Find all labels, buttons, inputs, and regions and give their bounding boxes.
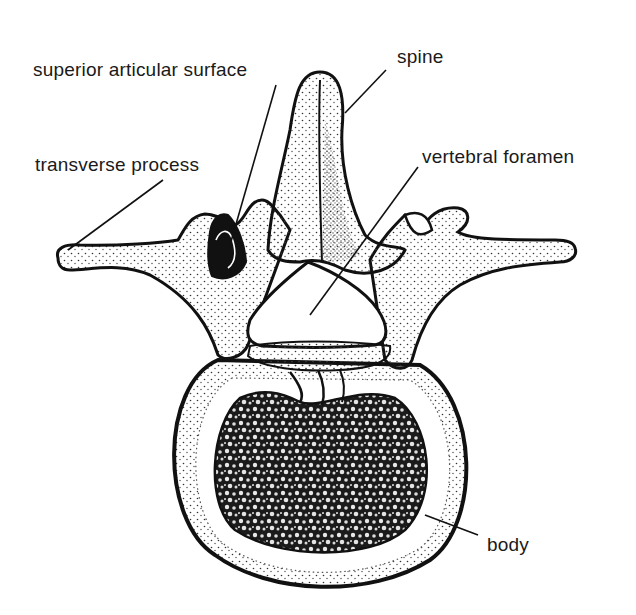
label-spine: spine xyxy=(397,47,443,66)
label-transverse-process: transverse process xyxy=(35,155,199,174)
vertebra-diagram: superior articular surface spine transve… xyxy=(0,0,636,615)
vertebral-body-shape xyxy=(174,360,466,587)
leader-transverse-process xyxy=(68,180,163,250)
body-posterior-rim xyxy=(248,342,390,371)
label-vertebral-foramen: vertebral foramen xyxy=(422,147,574,166)
vertebra-illustration xyxy=(0,0,636,615)
label-superior-articular-surface: superior articular surface xyxy=(33,60,247,79)
leader-spine xyxy=(345,70,386,113)
label-body: body xyxy=(487,535,529,554)
